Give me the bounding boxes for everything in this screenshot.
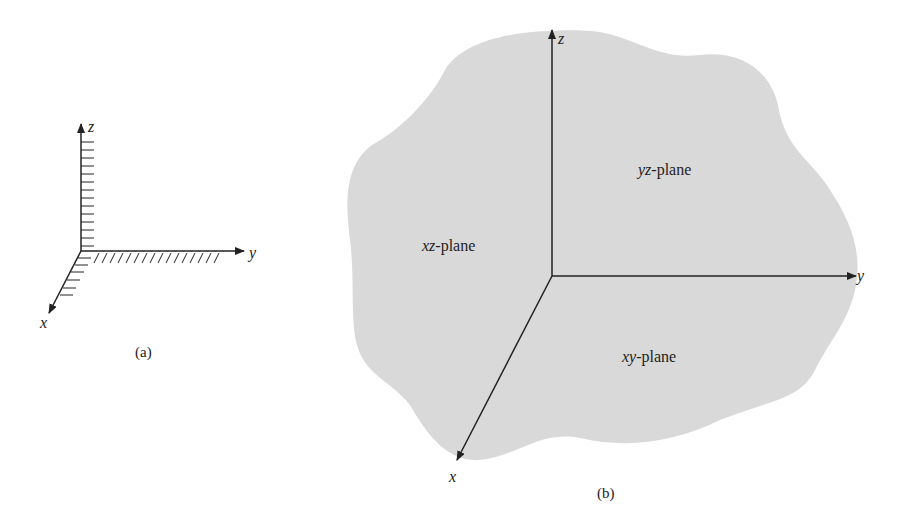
caption-a: (a) — [135, 344, 152, 361]
figure-a: z y x (a) — [39, 118, 257, 361]
z-label-b: z — [557, 30, 565, 47]
xy-plane-label: xy-plane — [621, 348, 676, 366]
caption-b: (b) — [597, 485, 615, 502]
x-axis-a — [49, 251, 81, 313]
y-label-a: y — [247, 244, 257, 262]
xz-plane-label: xz-plane — [421, 237, 475, 255]
z-label-a: z — [87, 118, 95, 135]
x-label-a: x — [39, 314, 47, 331]
x-label-b: x — [448, 468, 456, 485]
y-label-b: y — [855, 267, 865, 285]
z-hatching — [81, 142, 94, 246]
y-hatching — [94, 253, 219, 263]
yz-plane-label: yz-plane — [636, 161, 691, 179]
coordinate-figures: z y x (a) z y x yz-plane xz-plane xy-pla… — [0, 0, 909, 506]
figure-b: z y x yz-plane xz-plane xy-plane (b) — [347, 30, 865, 502]
x-hatching — [60, 258, 91, 295]
